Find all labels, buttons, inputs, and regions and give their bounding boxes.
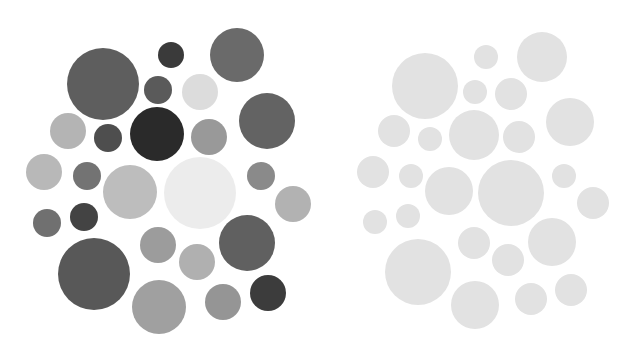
right-circle: [458, 227, 490, 259]
right-circle: [392, 53, 458, 119]
right-circle: [463, 80, 487, 104]
right-circle: [503, 121, 535, 153]
right-circle: [474, 45, 498, 69]
right-circle: [357, 156, 389, 188]
right-circle: [495, 78, 527, 110]
right-circle: [517, 32, 567, 82]
right-circle: [552, 164, 576, 188]
right-panel-light-circles: [0, 0, 638, 357]
right-circle: [396, 204, 420, 228]
right-circle: [528, 218, 576, 266]
right-circle: [418, 127, 442, 151]
right-circle: [449, 110, 499, 160]
right-circle: [451, 281, 499, 329]
right-circle: [546, 98, 594, 146]
right-circle: [378, 115, 410, 147]
right-circle: [577, 187, 609, 219]
right-circle: [363, 210, 387, 234]
right-circle: [425, 167, 473, 215]
right-circle: [555, 274, 587, 306]
right-circle: [399, 164, 423, 188]
right-circle: [492, 244, 524, 276]
right-circle: [385, 239, 451, 305]
right-circle: [515, 283, 547, 315]
right-circle: [478, 160, 544, 226]
